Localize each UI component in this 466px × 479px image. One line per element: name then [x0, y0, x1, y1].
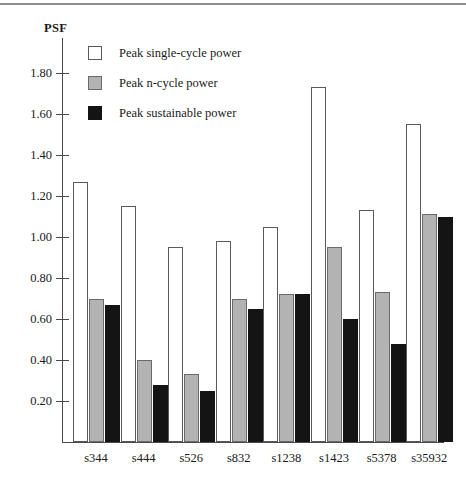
- bar: [391, 344, 406, 442]
- bar: [248, 309, 263, 442]
- x-axis-baseline: [62, 442, 444, 443]
- legend-item-label: Peak sustainable power: [119, 106, 236, 121]
- bar: [343, 319, 358, 442]
- y-axis-tick-label: 0.40: [8, 353, 52, 368]
- bar-chart-figure: PSF 0.200.400.600.801.001.201.401.601.80…: [0, 0, 466, 479]
- x-axis-category-label: s444: [132, 451, 156, 466]
- legend-item-label: Peak single-cycle power: [119, 46, 241, 61]
- bar: [438, 217, 453, 443]
- legend-item: Peak sustainable power: [88, 98, 318, 128]
- y-axis-tick-label: 0.20: [8, 394, 52, 409]
- bar: [184, 374, 199, 442]
- x-axis-category-label: s1238: [271, 451, 301, 466]
- x-axis-category-label: s526: [179, 451, 203, 466]
- y-axis-title: PSF: [44, 21, 67, 36]
- x-axis-category-label: s1423: [319, 451, 349, 466]
- y-axis-tick-label: 1.60: [8, 107, 52, 122]
- legend-item: Peak single-cycle power: [88, 38, 318, 68]
- legend-swatch-icon: [88, 46, 102, 60]
- bar: [89, 299, 104, 443]
- legend-swatch-icon: [88, 76, 102, 90]
- chart-legend: Peak single-cycle powerPeak n-cycle powe…: [88, 38, 318, 128]
- legend-item: Peak n-cycle power: [88, 68, 318, 98]
- bar: [216, 241, 231, 442]
- bar: [137, 360, 152, 442]
- y-axis-tick-label: 0.80: [8, 271, 52, 286]
- y-axis-tick-label: 0.60: [8, 312, 52, 327]
- bar: [121, 206, 136, 442]
- bar-group: [359, 38, 405, 442]
- y-axis-tick-label: 1.40: [8, 148, 52, 163]
- y-axis-tick-label: 1.80: [8, 66, 52, 81]
- bar-group: [406, 38, 452, 442]
- bar: [153, 385, 168, 442]
- bar: [422, 214, 437, 442]
- bar: [295, 294, 310, 442]
- bar: [105, 305, 120, 442]
- y-axis-tick-label: 1.20: [8, 189, 52, 204]
- bar: [359, 210, 374, 442]
- x-axis-category-label: s832: [227, 451, 251, 466]
- x-axis-category-label: s35932: [411, 451, 447, 466]
- bar: [375, 292, 390, 442]
- legend-item-label: Peak n-cycle power: [119, 76, 218, 91]
- bar: [279, 294, 294, 442]
- bar: [311, 87, 326, 442]
- bar: [327, 247, 342, 442]
- x-axis-category-label: s344: [84, 451, 108, 466]
- bar: [73, 182, 88, 442]
- y-axis-tick-label: 1.00: [8, 230, 52, 245]
- legend-swatch-icon: [88, 106, 102, 120]
- bar: [200, 391, 215, 442]
- x-axis-category-label: s5378: [367, 451, 397, 466]
- bar: [168, 247, 183, 442]
- bar: [232, 299, 247, 443]
- bar: [406, 124, 421, 442]
- bar: [263, 227, 278, 442]
